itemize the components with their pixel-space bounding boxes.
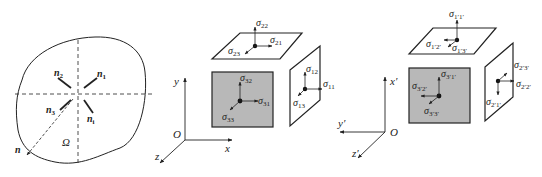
label-n2: n2 xyxy=(54,67,64,80)
origin-label: O xyxy=(173,128,181,140)
label-ni: ni xyxy=(87,113,95,126)
axis-y-prime-label: y′ xyxy=(337,117,346,129)
stress-tensor-diagram: n1 n2 n3 ni n Ω y x z O σ22 σ21 σ23 σ32 … xyxy=(0,0,542,177)
normal-n1-segment xyxy=(84,78,97,88)
domain-panel: n1 n2 n3 ni n Ω xyxy=(15,37,152,166)
label-sigma2p3p: σ2′3′ xyxy=(514,59,529,72)
domain-boundary xyxy=(16,37,145,163)
label-sigma2p2p: σ2′2′ xyxy=(516,78,531,91)
label-region-omega: Ω xyxy=(62,136,70,148)
original-stress-panel: y x z O σ22 σ21 σ23 σ32 σ31 σ33 σ12 σ11 … xyxy=(154,17,335,163)
axis-z-label: z xyxy=(154,150,160,162)
label-sigma1p1p: σ1′1′ xyxy=(449,8,464,21)
label-sigma22: σ22 xyxy=(256,17,268,30)
label-n3: n3 xyxy=(46,104,56,117)
transformed-stress-panel: x′ y′ z′ O σ1′1′ σ1′2′ σ1′3′ σ3′1′ σ3′2′… xyxy=(337,8,531,159)
axis-x-label: x xyxy=(224,142,230,154)
axis-x-prime-label: x′ xyxy=(389,75,398,87)
axis-z-prime-label: z′ xyxy=(351,147,359,159)
origin-label-prime: O xyxy=(390,126,398,138)
axis-z xyxy=(160,140,185,163)
normal-ni-segment xyxy=(84,100,93,113)
label-outward-normal: n xyxy=(15,144,21,155)
axis-y-label: y xyxy=(173,75,179,87)
axis-z-prime xyxy=(358,132,385,158)
label-n1: n1 xyxy=(97,68,107,81)
label-sigma11: σ11 xyxy=(323,78,335,91)
